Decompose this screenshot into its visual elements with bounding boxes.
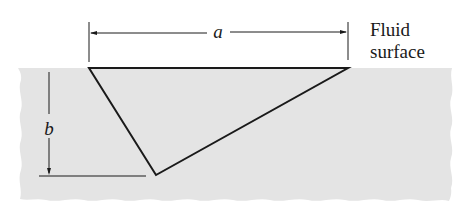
dimension-a-label: a bbox=[213, 21, 223, 42]
diagram-canvas: a b Fluid surface bbox=[0, 0, 474, 210]
fluid-surface-label-line2: surface bbox=[370, 41, 425, 62]
fluid-region bbox=[18, 68, 452, 201]
fluid-surface-label-line1: Fluid bbox=[370, 19, 411, 40]
dimension-a-arrow-left-icon bbox=[90, 31, 97, 35]
dimension-a-arrow-right-icon bbox=[340, 30, 347, 34]
dimension-b-label: b bbox=[44, 118, 54, 139]
